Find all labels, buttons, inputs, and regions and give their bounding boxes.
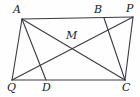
- vertex-label-B: B: [94, 4, 102, 15]
- cevian-BC: [104, 18, 125, 80]
- vertex-label-M: M: [66, 30, 77, 41]
- vertex-label-Q: Q: [7, 82, 16, 93]
- vertex-label-P: P: [126, 3, 133, 14]
- side-AP: [22, 17, 133, 19]
- side-AQ: [12, 19, 22, 80]
- vertex-label-A: A: [13, 4, 21, 15]
- geometry-canvas: [0, 0, 140, 97]
- cevian-AD: [22, 19, 46, 80]
- vertex-label-C: C: [122, 82, 130, 93]
- segment-group: [12, 17, 133, 80]
- side-PC: [125, 17, 133, 80]
- vertex-label-D: D: [42, 82, 51, 93]
- geometry-figure: A B P M Q D C: [0, 0, 140, 97]
